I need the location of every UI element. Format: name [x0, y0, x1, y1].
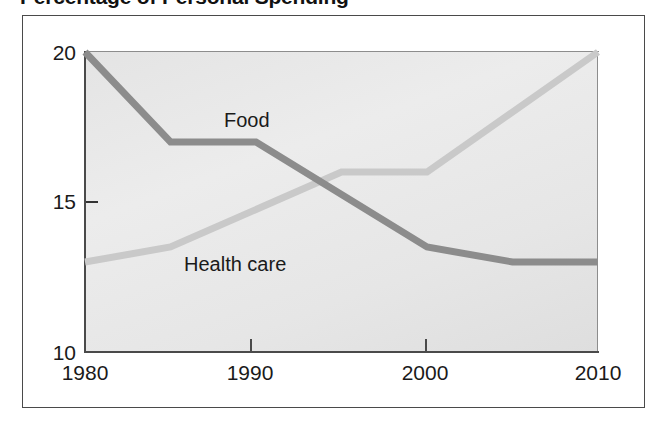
- x-tick-label-2000: 2000: [390, 362, 460, 383]
- plot-top-edge: [85, 51, 599, 52]
- x-tick-label-1980: 1980: [50, 362, 120, 383]
- x-axis-line: [84, 351, 599, 353]
- y-tick-label-10: 10: [53, 342, 76, 363]
- y-tick-label-15: 15: [53, 191, 76, 212]
- series-label-food: Food: [224, 110, 270, 130]
- y-tick-mark-15: [86, 201, 98, 203]
- plot-area: [85, 52, 598, 352]
- x-tick-mark-2000: [425, 339, 427, 352]
- x-tick-mark-1990: [250, 339, 252, 352]
- y-tick-15: 15: [0, 191, 76, 212]
- plot-right-edge: [597, 51, 598, 353]
- x-tick-label-2010: 2010: [563, 362, 633, 383]
- figure-title: Percentage of Personal Spending: [20, 0, 349, 9]
- series-label-health-care: Health care: [184, 254, 286, 274]
- y-tick-10: 10: [0, 342, 76, 363]
- y-tick-label-20: 20: [53, 42, 76, 63]
- y-tick-20: 20: [0, 42, 76, 63]
- x-tick-label-1990: 1990: [215, 362, 285, 383]
